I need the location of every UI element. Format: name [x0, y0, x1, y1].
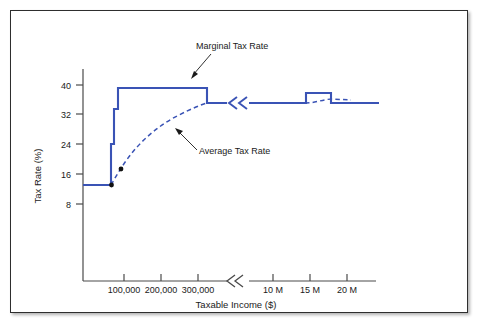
x-tick-label: 300,000: [182, 285, 215, 295]
y-tick-32: 32: [61, 110, 83, 120]
x-tick-label: 100,000: [108, 285, 141, 295]
y-axis-title: Tax Rate (%): [32, 149, 43, 204]
annotation-label: Marginal Tax Rate: [196, 41, 268, 51]
x-tick-label: 20 M: [337, 285, 357, 295]
x-tick-20m: 20 M: [337, 274, 357, 295]
y-tick-16: 16: [61, 170, 83, 180]
average-rate-marker: [109, 183, 114, 188]
figure-frame: 40 32 24 16 8 Tax Rate (%): [10, 10, 468, 313]
marginal-tax-rate-line-left: [83, 88, 227, 185]
y-tick-24: 24: [61, 140, 83, 150]
series-break-icon: [229, 97, 247, 109]
annotation-arrowhead: [191, 71, 198, 79]
annotation-leader-line: [178, 131, 197, 150]
annotation-marginal-tax-rate: Marginal Tax Rate: [191, 41, 268, 79]
y-tick-label: 40: [61, 81, 71, 91]
y-tick-label: 8: [66, 200, 71, 210]
x-tick-label: 15 M: [300, 285, 320, 295]
y-axis: 40 32 24 16 8 Tax Rate (%): [32, 69, 83, 281]
tax-rate-chart: 40 32 24 16 8 Tax Rate (%): [11, 11, 466, 311]
x-tick-10m: 10 M: [263, 274, 283, 295]
x-tick-label: 200,000: [145, 285, 178, 295]
annotation-average-tax-rate: Average Tax Rate: [175, 128, 270, 156]
x-axis-title: Taxable Income ($): [196, 299, 277, 310]
y-tick-label: 16: [61, 170, 71, 180]
x-tick-300000: 300,000: [182, 274, 215, 295]
annotation-label: Average Tax Rate: [199, 146, 270, 156]
x-tick-200000: 200,000: [145, 274, 178, 295]
annotation-arrowhead: [175, 128, 183, 135]
x-axis-break-icon: [227, 275, 243, 287]
annotation-leader-line: [193, 54, 211, 75]
x-tick-label: 10 M: [263, 285, 283, 295]
figure-root: 40 32 24 16 8 Tax Rate (%): [0, 0, 490, 330]
x-tick-15m: 15 M: [300, 274, 320, 295]
average-rate-marker: [119, 167, 124, 172]
y-tick-label: 32: [61, 110, 71, 120]
y-tick-8: 8: [66, 200, 83, 210]
x-axis: 100,000 200,000 300,000 10 M 15 M: [83, 274, 376, 310]
y-tick-label: 24: [61, 140, 71, 150]
average-tax-rate-curve-left: [111, 103, 207, 185]
x-tick-100000: 100,000: [108, 274, 141, 295]
y-tick-40: 40: [61, 81, 83, 91]
